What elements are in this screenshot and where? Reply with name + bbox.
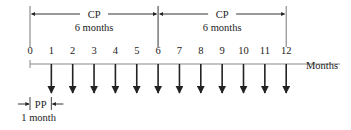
tick-label: 2 — [70, 45, 75, 56]
tick-label: 3 — [91, 45, 96, 56]
time-axis: 0123456789101112Months — [27, 45, 340, 71]
tick-label: 9 — [220, 45, 225, 56]
pp-label: PP — [35, 99, 47, 110]
cash-flow-diagram: CP6 monthsCP6 months 0123456789101112Mon… — [0, 0, 351, 130]
pp-duration-label: 1 month — [21, 112, 56, 123]
tick-label: 10 — [238, 45, 249, 56]
cp-duration-label: 6 months — [75, 22, 114, 33]
tick-label: 12 — [281, 45, 292, 56]
axis-unit-label: Months — [306, 60, 338, 71]
cp-label: CP — [216, 9, 229, 20]
tick-label: 0 — [27, 45, 32, 56]
cp-duration-label: 6 months — [203, 22, 242, 33]
tick-label: 1 — [49, 45, 54, 56]
tick-label: 6 — [155, 45, 160, 56]
tick-label: 8 — [198, 45, 203, 56]
tick-label: 5 — [134, 45, 139, 56]
payment-arrows — [51, 64, 286, 93]
tick-label: 11 — [260, 45, 270, 56]
cp-label: CP — [88, 9, 101, 20]
compounding-period-brackets: CP6 monthsCP6 months — [30, 6, 286, 47]
tick-label: 7 — [177, 45, 182, 56]
tick-label: 4 — [113, 45, 119, 56]
payment-period-bracket: PP1 month — [18, 97, 63, 123]
